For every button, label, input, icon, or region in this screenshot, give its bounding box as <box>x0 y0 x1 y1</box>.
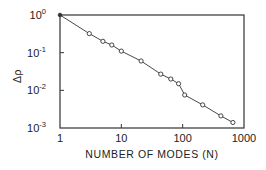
data-series-line <box>60 15 233 123</box>
y-tick-label: 10-3 <box>27 120 46 134</box>
x-tick-label: 10 <box>115 132 127 144</box>
x-axis-tick-labels: 1101001000 <box>57 132 256 144</box>
data-point-marker <box>183 93 187 97</box>
y-axis-title: Δρ <box>11 69 23 83</box>
y-axis-tick-labels: 10010-110-210-3 <box>27 7 46 134</box>
log-log-chart: 1101001000 10010-110-210-3 NUMBER OF MOD… <box>0 0 266 170</box>
x-tick-label: 1000 <box>232 132 256 144</box>
data-point-marker <box>201 103 205 107</box>
data-point-marker <box>231 120 235 124</box>
y-tick-label: 100 <box>30 7 46 21</box>
x-axis-title: NUMBER OF MODES (N) <box>85 148 218 160</box>
x-tick-label: 100 <box>173 132 191 144</box>
y-tick-label: 10-1 <box>27 45 46 59</box>
data-point-marker <box>87 31 91 35</box>
data-point-marker <box>177 82 181 86</box>
data-point-marker <box>219 114 223 118</box>
data-point-marker <box>110 43 114 47</box>
data-point-marker <box>119 49 123 53</box>
y-tick-label: 10-2 <box>27 82 46 96</box>
data-point-marker <box>159 72 163 76</box>
data-point-marker <box>169 77 173 81</box>
x-tick-label: 1 <box>57 132 63 144</box>
data-point-marker <box>139 59 143 63</box>
data-point-marker <box>58 13 62 17</box>
data-point-marker <box>101 39 105 43</box>
